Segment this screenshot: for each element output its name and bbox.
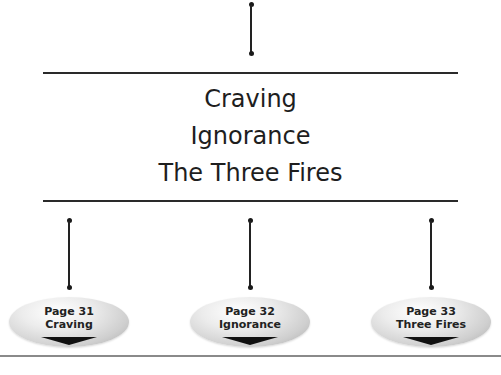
topic-line-ignorance: Ignorance bbox=[43, 118, 458, 155]
page-33-three-fires-link[interactable]: Page 33 Three Fires bbox=[371, 297, 491, 347]
arrow-down-icon bbox=[41, 337, 97, 345]
page-number-label: Page 31 bbox=[9, 305, 129, 318]
branch-3-line bbox=[430, 221, 432, 287]
branch-1-dot-bottom bbox=[67, 285, 72, 290]
top-divider bbox=[43, 72, 458, 74]
page-bottom-rule bbox=[0, 355, 501, 357]
branch-3-dot-bottom bbox=[429, 285, 434, 290]
bottom-divider bbox=[43, 200, 458, 202]
page-number-label: Page 32 bbox=[190, 305, 310, 318]
topic-line-craving: Craving bbox=[43, 81, 458, 118]
page-number-label: Page 33 bbox=[371, 305, 491, 318]
topic-line-three-fires: The Three Fires bbox=[43, 155, 458, 192]
page-32-ignorance-link[interactable]: Page 32 Ignorance bbox=[190, 297, 310, 347]
top-connector-line bbox=[250, 5, 252, 53]
page-title-label: Ignorance bbox=[190, 318, 310, 331]
page-31-craving-link[interactable]: Page 31 Craving bbox=[9, 297, 129, 347]
arrow-down-icon bbox=[222, 337, 278, 345]
branch-2-dot-bottom bbox=[248, 285, 253, 290]
branch-2-line bbox=[249, 221, 251, 287]
page-title-label: Three Fires bbox=[371, 318, 491, 331]
page-title-label: Craving bbox=[9, 318, 129, 331]
top-connector-dot-bottom bbox=[249, 51, 254, 56]
branch-1-line bbox=[68, 221, 70, 287]
topic-title-block: Craving Ignorance The Three Fires bbox=[43, 81, 458, 192]
arrow-down-icon bbox=[403, 337, 459, 345]
